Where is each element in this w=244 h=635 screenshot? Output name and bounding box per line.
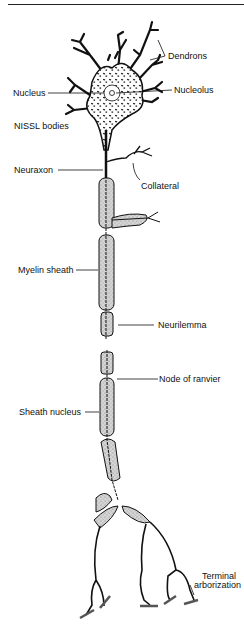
label-nucleolus: Nucleolus xyxy=(174,85,214,95)
terminal-branches xyxy=(86,522,194,615)
label-neurilemma: Neurilemma xyxy=(158,320,207,330)
leader-lines xyxy=(48,40,194,595)
label-neuraxon: Neuraxon xyxy=(14,165,53,175)
label-nissl-bodies: NISSL bodies xyxy=(14,121,69,131)
cell-body xyxy=(87,63,143,150)
nucleolus-shape xyxy=(110,91,115,96)
label-myelin-sheath: Myelin sheath xyxy=(18,265,74,275)
terminal-endings xyxy=(80,596,198,618)
label-arborization: arborization xyxy=(194,580,241,590)
label-collateral: Collateral xyxy=(141,181,179,191)
label-node-of-ranvier: Node of ranvier xyxy=(159,374,221,384)
label-sheath-nucleus: Sheath nucleus xyxy=(19,407,81,417)
label-dendrons: Dendrons xyxy=(168,51,207,61)
label-nucleus: Nucleus xyxy=(13,88,46,98)
myelin-segments xyxy=(94,178,150,528)
